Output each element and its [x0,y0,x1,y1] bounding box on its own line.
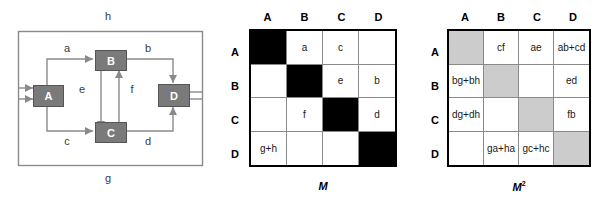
matrix-m2-col-header-d: D [555,11,591,23]
matrix-m-grid: acebfdg+h [249,29,397,167]
matrix-m-cell-1-1[interactable] [287,65,323,99]
node-d-label: D [170,90,178,102]
matrix-m2-cell-0-1[interactable]: cf [484,31,519,65]
figure-root: A B C D h a b e f c d g A B C D A B C D … [0,0,609,205]
node-c-label: C [107,127,115,139]
matrix-m-cell-2-1[interactable]: f [287,98,323,132]
matrix-m-cell-1-3[interactable]: b [359,65,395,99]
matrix-m2-cell-1-1[interactable]: ef [484,65,519,99]
node-a[interactable]: A [33,85,64,107]
node-a-label: A [44,90,52,102]
matrix-m-cell-0-0[interactable] [251,31,287,65]
matrix-m2-cell-2-0[interactable]: dg+dh [449,98,484,132]
matrix-m-row-header-c: C [228,114,242,126]
matrix-m2-caption: M2 [447,180,591,193]
matrix-m-cell-0-3[interactable] [359,31,395,65]
matrix-m-cell-3-3[interactable] [359,132,395,166]
matrix-m2-cell-2-2[interactable]: fe [519,98,554,132]
edge-label-g: g [98,172,118,184]
matrix-m2-cell-2-3[interactable]: fb [554,98,589,132]
matrix-m-col-header-d: D [360,11,397,23]
matrix-m-cell-3-1[interactable] [287,132,323,166]
matrix-m-col-header-a: A [249,11,286,23]
matrix-m2-col-header-a: A [447,11,483,23]
matrix-m-panel: A B C D A B C D acebfdg+h M [220,0,405,205]
matrix-m2-col-header-b: B [483,11,519,23]
edge-label-e: e [72,83,92,95]
matrix-m2-grid: cfaeab+cdbg+bhefeddg+dhfefbga+hagc+hc [447,29,591,167]
matrix-m2-cell-3-1[interactable]: ga+ha [484,132,519,166]
matrix-m2-row-header-a: A [428,46,442,58]
matrix-m2-cell-0-0[interactable] [449,31,484,65]
edge-label-b: b [138,42,158,54]
matrix-m2-row-header-d: D [428,148,442,160]
matrix-m2-cell-0-3[interactable]: ab+cd [554,31,589,65]
matrix-m2-cell-0-2[interactable]: ae [519,31,554,65]
matrix-m-cell-2-0[interactable] [251,98,287,132]
edge-label-d: d [138,135,158,147]
edge-label-c: c [57,135,77,147]
edge-label-a: a [57,42,77,54]
edge-b-path [125,59,173,83]
matrix-m-cell-3-2[interactable] [323,132,359,166]
matrix-m2-cell-3-0[interactable] [449,132,484,166]
matrix-m2-cell-2-1[interactable] [484,98,519,132]
state-diagram-panel: A B C D h a b e f c d g [0,0,215,205]
matrix-m-cell-3-0[interactable]: g+h [251,132,287,166]
matrix-m-cell-0-1[interactable]: a [287,31,323,65]
matrix-m-col-header-b: B [286,11,323,23]
edge-a-path [47,59,93,85]
matrix-m2-cell-3-2[interactable]: gc+hc [519,132,554,166]
matrix-m2-cell-1-2[interactable] [519,65,554,99]
matrix-m2-caption-exponent: 2 [522,180,526,187]
edge-d-path [125,107,173,131]
matrix-m2-col-header-c: C [519,11,555,23]
matrix-m2-cell-1-3[interactable]: ed [554,65,589,99]
matrix-m-cell-0-2[interactable]: c [323,31,359,65]
edge-label-f: f [122,83,142,95]
matrix-m-cell-2-2[interactable] [323,98,359,132]
matrix-m2-row-header-b: B [428,80,442,92]
matrix-m2-cell-1-0[interactable]: bg+bh [449,65,484,99]
matrix-m-col-header-c: C [323,11,360,23]
matrix-m-cell-2-3[interactable]: d [359,98,395,132]
matrix-m-cell-1-2[interactable]: e [323,65,359,99]
edge-label-h: h [98,10,118,22]
matrix-m2-panel: A B C D A B C D cfaeab+cdbg+bhefeddg+dhf… [420,0,609,205]
node-c[interactable]: C [95,122,127,143]
node-b[interactable]: B [95,50,127,71]
node-d[interactable]: D [158,84,190,107]
matrix-m2-caption-text: M [512,181,521,193]
matrix-m-cell-1-0[interactable] [251,65,287,99]
matrix-m-row-header-d: D [228,148,242,160]
edge-c-path [47,105,93,131]
matrix-m-caption-text: M [318,180,327,192]
matrix-m2-row-header-c: C [428,114,442,126]
matrix-m-row-header-b: B [228,80,242,92]
matrix-m2-cell-3-3[interactable] [554,132,589,166]
matrix-m-row-header-a: A [228,46,242,58]
matrix-m-caption: M [249,180,397,192]
node-b-label: B [107,55,115,67]
